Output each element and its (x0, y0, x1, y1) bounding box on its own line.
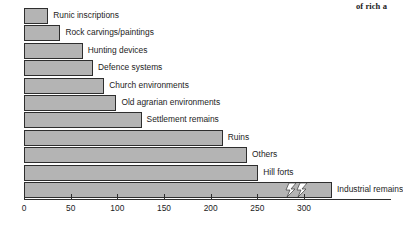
bar-row: Church environments (0, 78, 391, 94)
bar-row: Others (0, 147, 391, 163)
bar[interactable] (24, 112, 142, 128)
bar[interactable] (24, 8, 48, 24)
bar-row: Runic inscriptions (0, 8, 391, 24)
bar-label: Industrial remains (337, 184, 403, 195)
bar-label: Rock carvings/paintings (65, 27, 153, 38)
x-axis-tick-label: 100 (110, 203, 124, 213)
bar-row: Settlement remains (0, 112, 391, 128)
bar-row: Hill forts (0, 165, 391, 181)
x-axis-tick-label: 150 (157, 203, 171, 213)
x-axis-tick (257, 194, 258, 200)
bar-label: Hunting devices (88, 45, 148, 56)
bar[interactable] (24, 165, 258, 181)
bar-row: Defence systems (0, 60, 391, 76)
bar-row: Ruins (0, 130, 391, 146)
x-axis-tick-label: 250 (250, 203, 264, 213)
x-axis-tick-label: 200 (204, 203, 218, 213)
bar-row: Rock carvings/paintings (0, 25, 391, 41)
bar[interactable] (24, 130, 223, 146)
bar[interactable] (24, 60, 93, 76)
bar-label: Defence systems (98, 62, 162, 73)
bar-label: Hill forts (263, 167, 293, 178)
x-axis-tick-label: 50 (66, 203, 75, 213)
x-axis-tick (117, 194, 118, 200)
bar[interactable] (24, 43, 83, 59)
bar[interactable] (24, 147, 247, 163)
x-axis-line (24, 199, 391, 200)
bar-label: Settlement remains (147, 114, 219, 125)
bar[interactable] (24, 95, 116, 111)
bar[interactable] (24, 25, 60, 41)
x-axis-tick (164, 194, 165, 200)
bar-row: Old agrarian environments (0, 95, 391, 111)
bar-row: Hunting devices (0, 43, 391, 59)
bar-label: Ruins (228, 132, 249, 143)
x-axis-tick (211, 194, 212, 200)
x-axis-tick (71, 194, 72, 200)
bar-label: Others (252, 149, 277, 160)
x-axis-tick (304, 194, 305, 200)
x-axis-tick-label: 300 (297, 203, 311, 213)
x-axis-tick-label: 0 (22, 203, 27, 213)
bar-label: Runic inscriptions (53, 10, 119, 21)
bar-label: Church environments (109, 80, 189, 91)
axis-break-icon (283, 182, 309, 198)
bar-label: Old agrarian environments (121, 97, 220, 108)
bar-row: Industrial remains (0, 182, 391, 198)
bar[interactable] (24, 78, 104, 94)
